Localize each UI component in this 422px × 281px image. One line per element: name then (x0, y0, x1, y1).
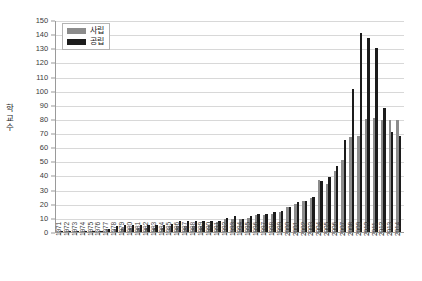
x-tick-label: 1989 (198, 222, 205, 236)
bar-public (375, 48, 377, 232)
bar-group (96, 21, 104, 232)
bar-group (371, 21, 379, 232)
x-tick-label: 2008 (348, 222, 355, 236)
bar-group (128, 21, 136, 232)
x-tick-label: 1979 (119, 222, 126, 236)
legend-swatch-private (67, 28, 86, 34)
y-axis-title: 학교수 (4, 104, 15, 133)
y-tick-label: 0 (44, 229, 48, 237)
bar-group (285, 21, 293, 232)
bar-group (81, 21, 89, 232)
y-tick-label: 60 (40, 144, 48, 152)
bar-group (261, 21, 269, 232)
bar-group (246, 21, 254, 232)
x-tick-label: 1983 (151, 222, 158, 236)
y-tick-label: 50 (40, 159, 48, 167)
bar-group (387, 21, 395, 232)
x-tick: 2001 (293, 235, 301, 281)
x-tick: 1981 (135, 235, 143, 281)
bar-group (222, 21, 230, 232)
bar-group (395, 21, 403, 232)
x-tick-label: 2007 (340, 222, 347, 236)
bar-group (230, 21, 238, 232)
x-tick: 1986 (174, 235, 182, 281)
y-tick-label: 20 (40, 201, 48, 209)
x-tick: 1987 (182, 235, 190, 281)
x-tick-label: 1980 (127, 222, 134, 236)
x-tick: 2014 (395, 235, 403, 281)
x-tick: 1999 (277, 235, 285, 281)
x-tick-label: 1982 (143, 222, 150, 236)
y-tick-label: 90 (40, 102, 48, 110)
x-tick: 2004 (316, 235, 324, 281)
plot-area (55, 21, 404, 233)
bar-group (356, 21, 364, 232)
bar-group (73, 21, 81, 232)
x-tick: 1975 (88, 235, 96, 281)
bar-group (238, 21, 246, 232)
x-tick-label: 1997 (261, 222, 268, 236)
x-tick-label: 1986 (174, 222, 181, 236)
legend-item: 공립 (67, 38, 104, 46)
x-tick: 1979 (119, 235, 127, 281)
x-tick: 1997 (261, 235, 269, 281)
x-tick: 1988 (190, 235, 198, 281)
bar-group (332, 21, 340, 232)
bar-group (151, 21, 159, 232)
x-tick-label: 2001 (293, 222, 300, 236)
y-tick-label: 120 (36, 60, 48, 68)
bar-group (175, 21, 183, 232)
bar-group (269, 21, 277, 232)
x-tick-label: 1999 (277, 222, 284, 236)
x-tick: 1994 (237, 235, 245, 281)
x-tick-label: 2013 (387, 222, 394, 236)
x-tick: 2012 (380, 235, 388, 281)
x-tick: 1989 (198, 235, 206, 281)
x-tick: 1993 (230, 235, 238, 281)
bar-group (253, 21, 261, 232)
y-tick-label: 150 (36, 17, 48, 25)
x-tick: 1974 (80, 235, 88, 281)
y-tick-label: 10 (40, 215, 48, 223)
x-tick-label: 1981 (135, 222, 142, 236)
legend-label: 공립 (90, 38, 104, 46)
bar-chart: 1501401301201101009080706050403020100 학교… (0, 0, 422, 281)
bar-group (198, 21, 206, 232)
bar-group (277, 21, 285, 232)
bar-public (367, 38, 369, 232)
x-tick: 2000 (285, 235, 293, 281)
x-tick: 1998 (269, 235, 277, 281)
x-tick-label: 1974 (80, 222, 87, 236)
x-tick-label: 1971 (56, 222, 63, 236)
x-tick-label: 1998 (269, 222, 276, 236)
bar-group (340, 21, 348, 232)
x-tick: 1996 (253, 235, 261, 281)
y-tick-label: 110 (36, 74, 48, 82)
y-tick-label: 40 (40, 173, 48, 181)
x-tick: 1992 (222, 235, 230, 281)
bar-group (309, 21, 317, 232)
x-tick: 1990 (206, 235, 214, 281)
x-tick: 1976 (95, 235, 103, 281)
bar-public (360, 33, 362, 232)
chart-legend: 사립공립 (62, 23, 110, 50)
bar-group (324, 21, 332, 232)
x-tick: 2006 (332, 235, 340, 281)
bar-group (159, 21, 167, 232)
bar-group (316, 21, 324, 232)
bar-group (167, 21, 175, 232)
x-axis: 1971197219731974197519761977197819791980… (55, 235, 404, 281)
bar-public (344, 140, 346, 232)
x-tick: 2003 (309, 235, 317, 281)
bar-group (57, 21, 65, 232)
x-tick: 1978 (111, 235, 119, 281)
legend-item: 사립 (67, 27, 104, 35)
x-tick-label: 1978 (111, 222, 118, 236)
y-tick-label: 80 (40, 116, 48, 124)
y-tick-label: 100 (36, 88, 48, 96)
y-axis-title-char: 수 (4, 123, 15, 133)
y-tick-label: 140 (36, 31, 48, 39)
y-tick-label: 130 (36, 46, 48, 54)
bar-group (293, 21, 301, 232)
bar-group (379, 21, 387, 232)
